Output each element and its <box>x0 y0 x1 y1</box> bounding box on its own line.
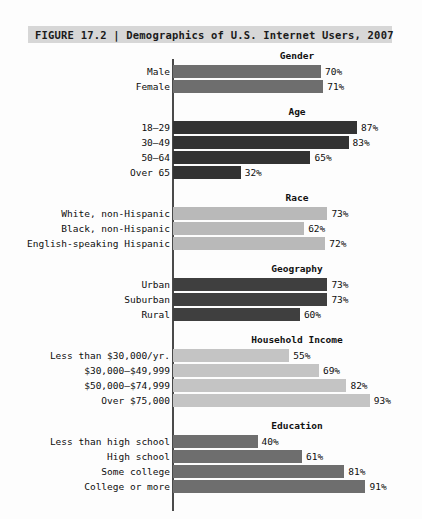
chart-plot-area: GenderMale70%Female71%Age18–2987%30–4983… <box>0 47 422 517</box>
chart-section: EducationLess than high school40%High sc… <box>0 417 422 494</box>
chart-section: GeographyUrban73%Suburban73%Rural60% <box>0 260 422 322</box>
bar-category-label: $30,000–$49,999 <box>84 363 170 378</box>
bar-category-label: Female <box>136 79 170 94</box>
bar-category-label: Some college <box>101 464 170 479</box>
bar-value-label: 71% <box>327 79 344 94</box>
section-title-text: Education <box>271 417 322 434</box>
bar-value-label: 82% <box>350 378 367 393</box>
bar-category-label: Over $75,000 <box>101 393 170 408</box>
chart-section: RaceWhite, non-Hispanic73%Black, non-His… <box>0 189 422 251</box>
bar <box>173 166 241 179</box>
bar-row: 18–2987% <box>0 120 422 135</box>
bar-row: $50,000–$74,99982% <box>0 378 422 393</box>
bar-category-label: English-speaking Hispanic <box>27 236 170 251</box>
bar-value-label: 60% <box>304 307 321 322</box>
bar <box>173 80 323 93</box>
section-title: Race <box>0 189 422 206</box>
section-gap <box>0 408 422 417</box>
bar-category-label: 18–29 <box>141 120 170 135</box>
bar <box>173 308 300 321</box>
bar-row: Less than $30,000/yr.55% <box>0 348 422 363</box>
bar-row: 50–6465% <box>0 150 422 165</box>
bar <box>173 151 310 164</box>
bar <box>173 222 304 235</box>
bar-category-label: Less than $30,000/yr. <box>50 348 170 363</box>
section-rows: Male70%Female71% <box>0 64 422 94</box>
bar-value-label: 62% <box>308 221 325 236</box>
bar-category-label: Black, non-Hispanic <box>61 221 170 236</box>
bar-value-label: 61% <box>306 449 323 464</box>
section-rows: Less than high school40%High school61%So… <box>0 434 422 494</box>
bar-row: $30,000–$49,99969% <box>0 363 422 378</box>
bar-value-label: 81% <box>348 464 365 479</box>
section-title: Gender <box>0 47 422 64</box>
section-rows: 18–2987%30–4983%50–6465%Over 6532% <box>0 120 422 180</box>
section-title-text: Gender <box>280 47 314 64</box>
bar <box>173 121 357 134</box>
bar-row: Male70% <box>0 64 422 79</box>
bar-value-label: 72% <box>329 236 346 251</box>
bar-value-label: 70% <box>325 64 342 79</box>
bar <box>173 435 258 448</box>
bar <box>173 480 365 493</box>
bar-category-label: Urban <box>141 277 170 292</box>
bar-category-label: Rural <box>141 307 170 322</box>
bar-value-label: 40% <box>262 434 279 449</box>
section-gap <box>0 251 422 260</box>
bar-row: 30–4983% <box>0 135 422 150</box>
chart-section: Age18–2987%30–4983%50–6465%Over 6532% <box>0 103 422 180</box>
bar-value-label: 32% <box>245 165 262 180</box>
bar-row: Urban73% <box>0 277 422 292</box>
bar <box>173 207 327 220</box>
bar-value-label: 93% <box>374 393 391 408</box>
bar-row: Over 6532% <box>0 165 422 180</box>
bar-value-label: 73% <box>331 292 348 307</box>
bar <box>173 278 327 291</box>
section-title: Education <box>0 417 422 434</box>
section-gap <box>0 322 422 331</box>
bar-category-label: $50,000–$74,999 <box>84 378 170 393</box>
section-rows: White, non-Hispanic73%Black, non-Hispani… <box>0 206 422 251</box>
bar-row: Black, non-Hispanic62% <box>0 221 422 236</box>
section-gap <box>0 494 422 503</box>
bar <box>173 450 302 463</box>
bar-row: Female71% <box>0 79 422 94</box>
bar-category-label: High school <box>107 449 170 464</box>
figure-title: FIGURE 17.2 | Demographics of U.S. Inter… <box>35 29 394 41</box>
bar <box>173 293 327 306</box>
bar-category-label: 50–64 <box>141 150 170 165</box>
bar-category-label: Over 65 <box>130 165 170 180</box>
bar <box>173 237 325 250</box>
figure-container: FIGURE 17.2 | Demographics of U.S. Inter… <box>0 0 422 519</box>
bar-row: White, non-Hispanic73% <box>0 206 422 221</box>
bar <box>173 65 321 78</box>
bar-row: Less than high school40% <box>0 434 422 449</box>
bar <box>173 364 319 377</box>
bar-value-label: 91% <box>369 479 386 494</box>
section-gap <box>0 94 422 103</box>
chart-sections: GenderMale70%Female71%Age18–2987%30–4983… <box>0 47 422 503</box>
bar <box>173 394 370 407</box>
bar <box>173 349 289 362</box>
bar-category-label: College or more <box>84 479 170 494</box>
bar-value-label: 73% <box>331 277 348 292</box>
figure-title-bar: FIGURE 17.2 | Demographics of U.S. Inter… <box>28 26 392 43</box>
bar-value-label: 87% <box>361 120 378 135</box>
section-title-text: Geography <box>271 260 322 277</box>
bar-row: Rural60% <box>0 307 422 322</box>
bar-row: High school61% <box>0 449 422 464</box>
section-rows: Urban73%Suburban73%Rural60% <box>0 277 422 322</box>
bar <box>173 379 346 392</box>
bar <box>173 136 349 149</box>
bar-value-label: 65% <box>314 150 331 165</box>
section-gap <box>0 180 422 189</box>
bar-row: Some college81% <box>0 464 422 479</box>
bar-category-label: Suburban <box>124 292 170 307</box>
bar-row: College or more91% <box>0 479 422 494</box>
section-title-text: Household Income <box>251 331 343 348</box>
bar-value-label: 83% <box>353 135 370 150</box>
section-title-text: Age <box>288 103 305 120</box>
section-title-text: Race <box>286 189 309 206</box>
bar-row: Over $75,00093% <box>0 393 422 408</box>
bar-value-label: 73% <box>331 206 348 221</box>
